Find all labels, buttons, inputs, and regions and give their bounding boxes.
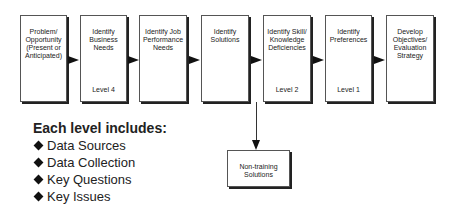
diamond-bullet-icon	[34, 141, 44, 151]
step-title: Identify Job Performance Needs	[140, 28, 186, 52]
legend-item: Data Sources	[33, 137, 167, 154]
arrow-right-icon	[68, 56, 79, 64]
step-level: Level 2	[264, 86, 310, 93]
step-level: Level 1	[326, 86, 371, 93]
step-title: Identify Solutions	[202, 28, 248, 44]
legend-item: Key Issues	[33, 188, 167, 205]
legend: Each level includes: Data Sources Data C…	[33, 120, 167, 205]
step-problem-opportunity: Problem/ Opportunity (Present or Anticip…	[20, 15, 67, 102]
step-business-needs: Identify Business Needs Level 4	[80, 15, 127, 102]
arrow-right-icon	[251, 56, 262, 64]
arrow-right-icon	[189, 56, 200, 64]
diamond-bullet-icon	[34, 192, 44, 202]
arrow-right-icon	[374, 56, 385, 64]
step-title: Problem/ Opportunity (Present or Anticip…	[21, 28, 66, 60]
branch-title: Non-training Solutions	[228, 163, 289, 179]
legend-item: Data Collection	[33, 154, 167, 171]
step-title: Identify Skill/ Knowledge Deficiencies	[264, 28, 310, 52]
step-objectives-evaluation: Develop Objectives/ Evaluation Strategy	[386, 15, 434, 102]
step-title: Develop Objectives/ Evaluation Strategy	[387, 28, 433, 60]
branch-connector-line	[256, 102, 257, 142]
step-title: Identify Preferences	[326, 28, 371, 44]
branch-non-training-solutions: Non-training Solutions	[227, 150, 290, 187]
step-preferences: Identify Preferences Level 1	[325, 15, 372, 102]
step-level: Level 4	[81, 86, 126, 93]
step-solutions: Identify Solutions	[201, 15, 249, 102]
step-title: Identify Business Needs	[81, 28, 126, 52]
step-skill-knowledge-deficiencies: Identify Skill/ Knowledge Deficiencies L…	[263, 15, 311, 102]
arrow-right-icon	[128, 56, 139, 64]
legend-heading: Each level includes:	[33, 120, 167, 136]
diamond-bullet-icon	[34, 175, 44, 185]
arrow-right-icon	[313, 56, 324, 64]
step-job-performance-needs: Identify Job Performance Needs	[139, 15, 187, 102]
legend-item: Key Questions	[33, 171, 167, 188]
arrow-down-icon	[252, 140, 260, 150]
diamond-bullet-icon	[34, 158, 44, 168]
